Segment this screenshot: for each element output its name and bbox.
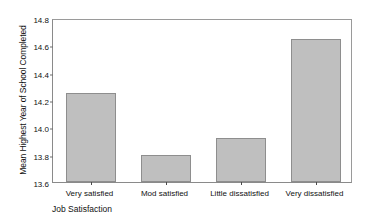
bar: [216, 138, 266, 182]
y-axis-tick-mark: [50, 102, 53, 103]
y-axis-tick-mark: [50, 129, 53, 130]
x-axis-tick-mark: [316, 182, 317, 185]
x-axis-tick-mark: [91, 182, 92, 185]
x-axis-tick-label: Very satisfied: [66, 189, 114, 198]
y-axis-tick-mark: [50, 74, 53, 75]
bar: [291, 39, 341, 183]
y-axis-title: Mean Highest Year of School Completed: [18, 10, 28, 190]
y-axis-tick-mark: [50, 156, 53, 157]
y-axis-tick-mark: [50, 47, 53, 48]
x-axis-tick-mark: [241, 182, 242, 185]
bar: [141, 155, 191, 182]
x-axis-tick-label: Mod satisfied: [141, 189, 188, 198]
x-axis-title: Job Satisfaction: [52, 204, 112, 214]
y-axis-tick-label: 13.6: [33, 180, 53, 189]
bar-chart-figure: Mean Highest Year of School Completed 13…: [0, 0, 366, 223]
x-axis-tick-label: Very dissatisfied: [286, 189, 344, 198]
bar: [66, 93, 116, 182]
x-axis-tick-label: Little dissatisfied: [210, 189, 269, 198]
y-axis-tick-label: 14.8: [33, 16, 53, 25]
plot-area: 13.613.814.014.214.414.614.8: [52, 19, 352, 183]
x-axis-tick-mark: [166, 182, 167, 185]
